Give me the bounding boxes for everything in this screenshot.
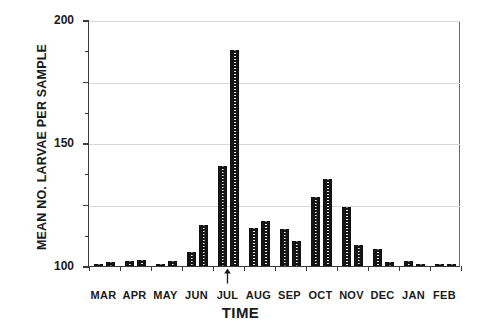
bar [416, 264, 425, 266]
x-tick-label: MAR [91, 289, 117, 301]
gridline [89, 83, 460, 84]
bar [94, 264, 103, 266]
x-axis-title: TIME [0, 304, 481, 321]
x-tick-mark [461, 266, 462, 271]
bar [261, 221, 270, 267]
bar [385, 262, 394, 266]
x-tick-label: JUN [185, 289, 208, 301]
x-tick-label: JUL [217, 289, 239, 301]
y-axis-title: MEAN NO. LARVAE PER SAMPLE [35, 17, 49, 277]
bar-chart-figure: MEAN NO. LARVAE PER SAMPLE 050100150200 … [0, 0, 481, 331]
plot-area: 050100150200 [88, 21, 460, 267]
annotation-arrow-icon [221, 268, 234, 284]
bar [435, 264, 444, 266]
bar [106, 262, 115, 266]
x-tick-mark [306, 266, 307, 271]
x-tick-label: OCT [308, 289, 332, 301]
y-tick-label: 150 [54, 136, 74, 150]
x-tick-mark [244, 266, 245, 271]
x-tick-mark [89, 266, 90, 271]
bar [125, 261, 134, 266]
bar [342, 207, 351, 266]
y-minor-tick-mark [85, 51, 89, 52]
x-tick-label: FEB [433, 289, 456, 301]
gridline [89, 21, 460, 22]
x-tick-mark [337, 266, 338, 271]
gridline [89, 144, 460, 145]
bar [292, 241, 301, 266]
x-tick-label: AUG [246, 289, 271, 301]
y-tick-label: 100 [54, 259, 74, 273]
bar [230, 50, 239, 266]
y-tick-mark: 50 [83, 205, 89, 207]
gridline [89, 206, 460, 207]
bar [168, 261, 177, 266]
x-tick-mark [213, 266, 214, 271]
bar [137, 260, 146, 266]
x-tick-label: SEP [278, 289, 301, 301]
x-tick-mark [275, 266, 276, 271]
bar [199, 225, 208, 266]
bar [249, 228, 258, 266]
bar [311, 197, 320, 266]
bar [187, 252, 196, 266]
x-tick-mark [182, 266, 183, 271]
y-tick-mark: 100 [83, 143, 89, 145]
x-tick-label: MAY [153, 289, 177, 301]
bar [447, 264, 456, 266]
bar [280, 229, 289, 266]
y-tick-mark: 200 [83, 20, 89, 22]
bar [323, 179, 332, 266]
x-tick-mark [399, 266, 400, 271]
bar [156, 264, 165, 266]
y-minor-tick-mark [85, 236, 89, 237]
bar [373, 249, 382, 266]
y-tick-label: 200 [54, 13, 74, 27]
y-minor-tick-mark [85, 174, 89, 175]
x-tick-mark [120, 266, 121, 271]
x-tick-mark [430, 266, 431, 271]
x-tick-label: APR [122, 289, 146, 301]
y-minor-tick-mark [85, 113, 89, 114]
y-tick-mark: 150 [83, 82, 89, 84]
x-tick-mark [151, 266, 152, 271]
x-tick-label: DEC [370, 289, 394, 301]
x-tick-mark [368, 266, 369, 271]
bar [354, 245, 363, 266]
bar [218, 166, 227, 266]
bar [404, 261, 413, 266]
x-tick-label: JAN [402, 289, 425, 301]
x-tick-label: NOV [339, 289, 364, 301]
